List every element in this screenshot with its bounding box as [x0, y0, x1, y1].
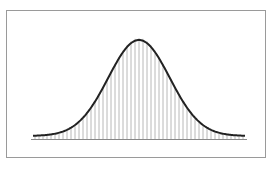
histogram-bars: [35, 38, 243, 139]
histogram-plot: [0, 0, 273, 174]
